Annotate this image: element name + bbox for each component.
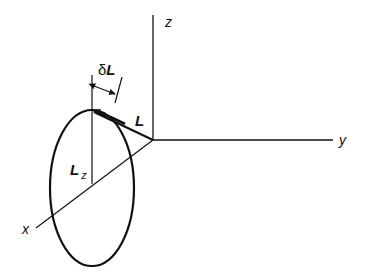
delta-l-arrow bbox=[94, 86, 115, 94]
lz-subscript: z bbox=[80, 169, 87, 181]
l-vector-label: L bbox=[135, 112, 144, 129]
precession-diagram: z y x L δL Lz bbox=[0, 0, 374, 276]
lz-main: L bbox=[70, 161, 79, 178]
y-axis-label: y bbox=[338, 132, 347, 148]
delta-l-main: L bbox=[106, 61, 115, 78]
lz-label: Lz bbox=[70, 161, 87, 181]
l-vector-thick-segment bbox=[94, 111, 125, 124]
delta-l-label: δL bbox=[98, 61, 116, 78]
z-axis-label: z bbox=[164, 14, 172, 30]
delta-l-tick-line bbox=[115, 77, 122, 103]
x-axis-label: x bbox=[21, 221, 30, 237]
delta-symbol: δ bbox=[98, 61, 106, 78]
